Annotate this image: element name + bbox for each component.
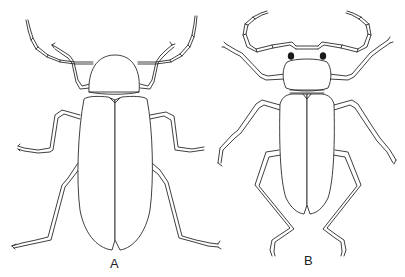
beetle-b-elytra-right	[307, 94, 334, 214]
beetle-b	[218, 11, 396, 256]
beetle-b-antennae	[243, 11, 371, 52]
beetle-a-elytra-left	[78, 96, 115, 250]
beetle-b-pronotum	[283, 59, 331, 91]
beetle-b-elytra-left	[280, 94, 307, 214]
beetle-figure: A B	[0, 0, 405, 277]
beetle-b-eye-left	[288, 52, 294, 60]
panel-label-a: A	[110, 257, 119, 270]
beetle-b-eye-right	[320, 52, 326, 60]
beetle-a-elytra-right	[115, 96, 152, 250]
panel-label-b: B	[304, 254, 313, 267]
beetle-a-pronotum	[89, 55, 139, 94]
illustration-canvas	[0, 0, 405, 277]
beetle-a	[12, 16, 221, 250]
